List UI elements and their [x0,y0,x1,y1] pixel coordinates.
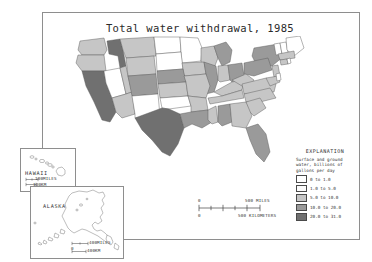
legend-item: 10.0 to 20.0 [296,204,354,211]
alaska-label: ALASKA [43,203,66,209]
state-mn: Minnesota [180,37,202,63]
legend-label: 0 to 1.0 [310,177,331,182]
legend-label: 1.0 to 5.0 [310,186,336,191]
alaska-km-unit: KM [95,248,100,253]
legend-label: 20.0 to 31.0 [310,214,341,219]
legend-subtitle-line-3: gallons per day [296,168,354,173]
legend-label: 10.0 to 20.0 [310,205,341,210]
state-or: Oregon [76,55,106,71]
state-fl: Florida [246,124,270,162]
scale-bar-graphic [198,204,268,212]
legend-item: 0 to 1.0 [296,175,354,182]
legend-item: 20.0 to 31.0 [296,213,354,220]
state-ks: Kansas [158,82,188,98]
scale-km-value: 500 [238,213,246,218]
legend-item: 1.0 to 5.0 [296,185,354,192]
alaska-miles-unit: MILES [97,240,111,245]
map-figure: Total water withdrawal, 1985 WashingtonO… [0,0,372,262]
scale-miles-unit: MILES [256,198,270,203]
legend-title: EXPLANATION [296,148,354,154]
legend-swatch [296,204,307,211]
scale-zero-top: 0 [198,198,201,203]
alaska-inset: ALASKA 400 MILES 0 400 KM [30,186,124,259]
state-ri: Rhode Island [287,58,291,64]
state-pa: Pennsylvania [244,58,272,76]
state-ok: Oklahoma [160,96,191,109]
state-sd: South Dakota [156,52,183,71]
state-mt: Montana [120,37,156,58]
state-de: Delaware [276,73,281,81]
legend-swatch [296,213,307,220]
state-al: Alabama [218,104,232,126]
state-mo: Missouri [184,74,210,98]
state-nd: North Dakota [154,37,181,54]
state-wa: Washington [78,38,107,55]
page-title: Total water withdrawal, 1985 [42,22,358,34]
alaska-km-value: 400 [87,248,95,253]
state-ct: Connecticut [280,59,288,65]
state-tx: Texas [135,108,184,156]
legend: EXPLANATION Surface and ground water, bi… [296,148,354,220]
alaska-miles-value: 400 [89,240,97,245]
legend-item: 5.0 to 10.0 [296,194,354,201]
hawaii-miles-value: 100 [35,176,43,181]
legend-class-list: 0 to 1.01.0 to 5.05.0 to 10.010.0 to 20.… [296,175,354,220]
state-ms: Mississippi [208,106,218,124]
alaska-shape [31,187,123,258]
scale-miles-value: 500 [245,198,253,203]
main-scale-bar: 0 500 MILES 0 500 KILOMETERS [198,198,284,222]
scale-zero-bottom: 0 [198,213,201,218]
legend-swatch [296,194,307,201]
state-ia: Iowa [182,62,206,76]
legend-label: 5.0 to 10.0 [310,195,338,200]
legend-swatch [296,175,307,182]
scale-km-unit: KILOMETERS [249,213,276,218]
legend-swatch [296,185,307,192]
state-co: Colorado [128,74,158,96]
united-states-choropleth: WashingtonOregonIdahoMontanaNorth Dakota… [74,36,310,186]
state-ar: Arkansas [188,96,208,112]
legend-subtitle: Surface and ground water, billions of ga… [296,157,354,173]
state-mi: Michigan [214,42,232,66]
state-la: Louisiana [180,110,212,128]
state-ne: Nebraska [157,69,186,84]
state-wy: Wyoming [126,56,156,76]
hawaii-miles-unit: MILES [43,176,57,181]
